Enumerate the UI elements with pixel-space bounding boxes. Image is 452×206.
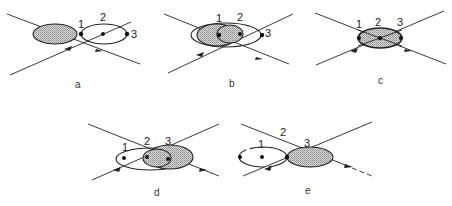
point-label-1: 1 [216,12,222,24]
point-2-dot [101,32,105,36]
arrow-icon [344,164,353,168]
panel-label-a: a [75,79,81,90]
point-1-dot [238,155,242,159]
point-1-dot [79,32,83,36]
point-2-dot [145,155,149,159]
collision-diagram: 1 2 3 a 1 2 3 b 1 2 3 c [0,0,452,206]
arrow-icon [199,168,207,172]
shaded-ellipse [287,147,333,167]
point-label-1: 1 [122,141,128,153]
point-3-dot [260,33,264,37]
arrow-icon [113,167,121,172]
point-1-dot [122,156,126,160]
point-label-2: 2 [280,126,286,138]
point-label-1: 1 [258,138,264,150]
point-1-dot [357,36,361,40]
point-2-dot [378,36,382,40]
descending-line-dashed [352,168,372,176]
point-label-1: 1 [356,18,362,30]
arrow-icon [255,57,263,60]
panel-c: 1 2 3 c [315,11,446,86]
panel-b: 1 2 3 b [164,11,293,89]
point-2-dot [238,32,242,36]
panel-d: 1 2 3 d [88,124,219,198]
point-label-3: 3 [131,28,137,40]
panel-label-c: c [378,75,383,86]
point-3-dot [166,157,170,161]
panel-label-d: d [154,187,160,198]
point-label-3: 3 [397,16,403,28]
panel-label-b: b [229,78,235,89]
point-3-dot [399,36,403,40]
panel-e: 1 2 3 e [238,122,372,196]
point-3-dot [285,155,289,159]
point-label-2: 2 [144,135,150,147]
point-label-3: 3 [265,27,271,39]
point-2-dot [260,155,264,159]
panel-label-e: e [305,185,311,196]
point-1-dot [217,33,221,37]
panel-a: 1 2 3 a [7,11,140,90]
point-label-2: 2 [100,11,106,23]
point-label-3: 3 [304,137,310,149]
point-3-dot [125,32,129,36]
point-label-3: 3 [165,135,171,147]
point-label-2: 2 [375,16,381,28]
arrow-icon [64,46,72,51]
point-label-2: 2 [237,11,243,23]
shaded-ellipse [33,24,77,44]
point-label-1: 1 [78,18,84,30]
